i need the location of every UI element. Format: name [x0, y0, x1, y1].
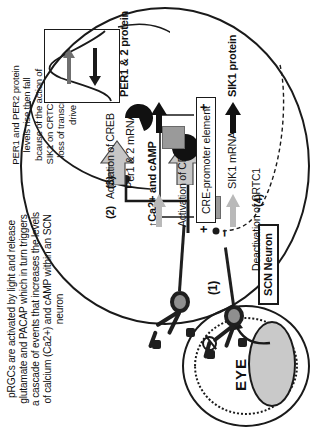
per-protein-label: PER1 & 2 protein [118, 11, 131, 97]
prgc-dendrite-tip [238, 338, 247, 347]
translation-arrow-per [150, 101, 168, 133]
step-3-marker: (3) [104, 176, 117, 189]
prgc-dendrite-tip [152, 340, 161, 349]
per-mrna-label: Per1 & 2 mRNA [124, 113, 137, 189]
figure-canvas: pRGCs are activated by light and release… [0, 0, 319, 433]
prgc-dendrite-tip [206, 350, 215, 359]
prgc-dendrite-tip [186, 328, 195, 337]
sik1-feedback-dashed-arrow [210, 61, 288, 247]
transcription-arrow-per [150, 193, 168, 227]
step-2-marker: (2) [104, 206, 117, 219]
eye-label: EYE [232, 358, 250, 391]
